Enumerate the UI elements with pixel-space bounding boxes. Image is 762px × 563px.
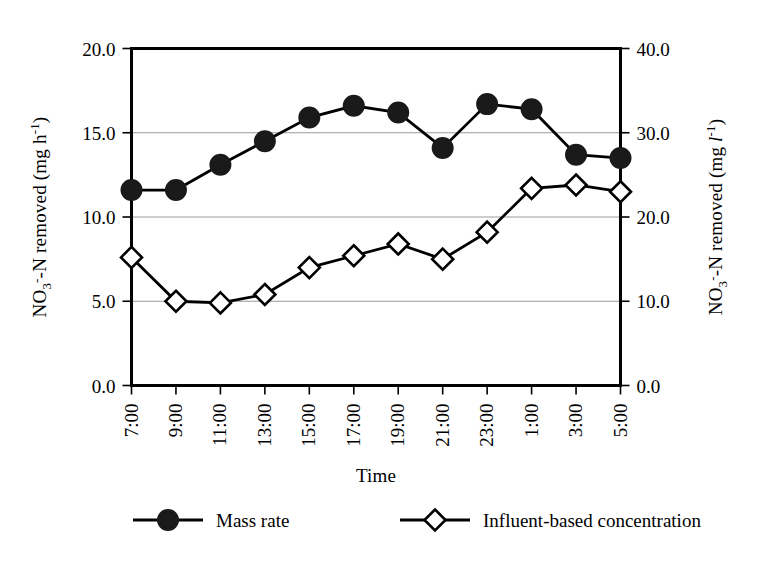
data-point-open-diamond — [299, 257, 320, 278]
gridlines — [132, 133, 621, 302]
right-axis-tick-label: 0.0 — [637, 376, 661, 397]
right-axis-tick-labels: 0.010.020.030.040.0 — [637, 39, 670, 397]
series-line — [132, 104, 621, 190]
data-point-filled-circle — [433, 138, 453, 158]
series-2 — [121, 174, 631, 313]
data-point-filled-circle — [477, 94, 497, 114]
x-axis-tick-label: 5:00 — [610, 404, 631, 438]
data-point-open-diamond — [343, 245, 364, 266]
chart-figure: 0.05.010.015.020.0 0.010.020.030.040.0 7… — [0, 0, 762, 563]
data-point-filled-circle — [611, 148, 631, 168]
data-series-layer — [121, 94, 631, 313]
data-point-filled-circle — [566, 145, 586, 165]
chart-legend: Mass rateInfluent-based concentration — [133, 510, 701, 532]
x-axis-title: Time — [356, 465, 396, 486]
right-axis-title: NO3--N removed (mg l-1) — [703, 119, 730, 316]
data-point-filled-circle — [210, 155, 230, 175]
data-point-filled-circle — [166, 180, 186, 200]
left-axis-tick-label: 15.0 — [82, 123, 115, 144]
data-point-open-diamond — [610, 181, 631, 202]
left-axis-tick-label: 20.0 — [82, 39, 115, 60]
right-axis-tick-label: 30.0 — [637, 123, 670, 144]
right-axis-tick-label: 10.0 — [637, 291, 670, 312]
svg-text:Time: Time — [356, 465, 396, 486]
data-point-filled-circle — [344, 96, 364, 116]
left-axis-title: NO3--N removed (mg h-1) — [27, 117, 54, 318]
legend-label: Influent-based concentration — [483, 510, 701, 531]
svg-text:NO3--N removed (mg l-1): NO3--N removed (mg l-1) — [703, 119, 730, 316]
series-1 — [122, 94, 631, 200]
legend-label: Mass rate — [216, 510, 289, 531]
data-point-open-diamond — [566, 174, 587, 195]
svg-text:NO3--N removed (mg h-1): NO3--N removed (mg h-1) — [27, 117, 54, 318]
right-axis-tick-label: 40.0 — [637, 39, 670, 60]
data-point-open-diamond — [432, 249, 453, 270]
x-axis-tick-label: 15:00 — [298, 404, 319, 447]
nitrate-removal-line-chart: 0.05.010.015.020.0 0.010.020.030.040.0 7… — [0, 0, 762, 563]
data-point-filled-circle — [122, 180, 142, 200]
x-axis-tick-label: 17:00 — [343, 404, 364, 447]
x-axis-tick-label: 23:00 — [476, 404, 497, 447]
left-axis-tick-label: 5.0 — [92, 291, 116, 312]
left-axis-tick-label: 0.0 — [92, 376, 116, 397]
legend-item-2[interactable]: Influent-based concentration — [400, 510, 701, 532]
x-axis-tick-label: 9:00 — [165, 404, 186, 438]
legend-item-1[interactable]: Mass rate — [133, 510, 289, 531]
series-line — [132, 185, 621, 303]
left-axis-tick-label: 10.0 — [82, 207, 115, 228]
data-point-filled-circle — [299, 108, 319, 128]
data-point-open-diamond — [254, 284, 275, 305]
x-axis-tick-label: 3:00 — [565, 404, 586, 438]
x-axis-tick-label: 21:00 — [432, 404, 453, 447]
x-axis-tick-label: 11:00 — [209, 404, 230, 447]
x-axis-tick-label: 1:00 — [521, 404, 542, 438]
left-axis-tick-labels: 0.05.010.015.020.0 — [82, 39, 115, 397]
x-axis-tick-label: 19:00 — [387, 404, 408, 447]
data-point-filled-circle — [388, 103, 408, 123]
data-point-open-diamond — [388, 233, 409, 254]
data-point-filled-circle — [522, 99, 542, 119]
data-point-filled-circle — [255, 131, 275, 151]
x-axis-tick-label: 13:00 — [254, 404, 275, 447]
data-point-open-diamond — [425, 510, 446, 531]
data-point-filled-circle — [158, 510, 178, 530]
data-point-open-diamond — [210, 292, 231, 313]
x-axis-tick-labels: 7:009:0011:0013:0015:0017:0019:0021:0023… — [121, 404, 631, 447]
right-axis-tick-label: 20.0 — [637, 207, 670, 228]
x-axis-tick-label: 7:00 — [121, 404, 142, 438]
